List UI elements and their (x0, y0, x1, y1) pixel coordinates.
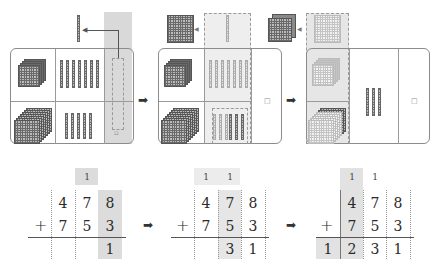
divider (104, 49, 105, 144)
carry-digit: 1 (363, 170, 387, 184)
column-line (265, 190, 266, 259)
plus-sign: + (34, 216, 47, 236)
result-digit: 1 (241, 239, 265, 259)
digit: 3 (386, 216, 410, 236)
divider (55, 49, 56, 144)
carry-digit: 1 (218, 170, 242, 184)
result-digit: 1 (316, 239, 340, 259)
regrouped-hundred-flat (314, 15, 341, 43)
digit: 5 (363, 216, 387, 236)
arrow-head-icon: ◀ (194, 25, 199, 32)
digit: 7 (363, 193, 387, 213)
digit: 4 (340, 193, 364, 213)
digit: 4 (194, 193, 218, 213)
next-arrow-icon: ➡ (138, 93, 148, 107)
divider (204, 49, 205, 144)
arrow-head-icon: ◀ (297, 25, 302, 32)
digit: 7 (51, 216, 75, 236)
ones-group-dashed (112, 58, 124, 130)
digit: 8 (241, 193, 265, 213)
divider (398, 49, 399, 144)
regroup-arrow-line (86, 30, 119, 31)
new-ten-rod (77, 15, 80, 42)
regrouped-ten-rod (226, 15, 229, 42)
result-digit: 3 (363, 239, 387, 259)
column-line (410, 190, 411, 259)
result-digit: 1 (386, 239, 410, 259)
carry-digit: 1 (75, 170, 99, 184)
digit: 5 (218, 216, 242, 236)
new-hundred-flat (167, 15, 194, 43)
next-arrow-icon: ➡ (143, 218, 153, 232)
digit: 3 (98, 216, 122, 236)
digit: 5 (75, 216, 99, 236)
ones-unit-cube: ▫ (114, 129, 119, 137)
digit: 4 (51, 193, 75, 213)
plus-sign: + (176, 216, 189, 236)
sum-line (28, 237, 126, 238)
remaining-one-cube: □ (264, 97, 271, 105)
sum-line (171, 237, 269, 238)
digit: 7 (75, 193, 99, 213)
plus-sign: + (320, 216, 333, 236)
sum-line (316, 237, 414, 238)
divider (349, 49, 350, 144)
digit: 3 (241, 216, 265, 236)
digit: 7 (340, 216, 364, 236)
remaining-one-cube: □ (411, 97, 418, 105)
divider (159, 101, 251, 102)
result-digit: 3 (218, 239, 242, 259)
arrow-head-icon: ◀ (82, 26, 87, 34)
result-digit: 2 (340, 239, 364, 259)
carry-digit: 1 (194, 170, 218, 184)
digit: 8 (98, 193, 122, 213)
digit: 7 (218, 193, 242, 213)
divider (307, 101, 349, 102)
divider (251, 49, 252, 144)
digit: 7 (194, 216, 218, 236)
digit: 8 (386, 193, 410, 213)
next-arrow-icon: ➡ (286, 218, 296, 232)
regroup-arrow-line (118, 30, 119, 58)
carry-digit: 1 (340, 170, 364, 184)
result-digit: 1 (98, 239, 122, 259)
next-arrow-icon: ➡ (286, 93, 296, 107)
